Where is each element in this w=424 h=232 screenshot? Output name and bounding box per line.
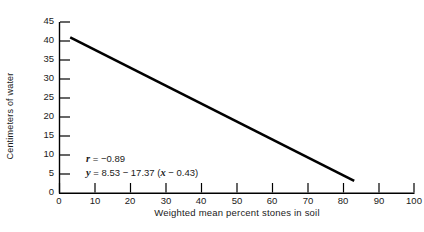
y-tick-label-5: 5 [28, 167, 54, 178]
x-tick-label-20: 20 [120, 195, 140, 206]
y-tick-label-20: 20 [28, 110, 54, 121]
y-tick-label-35: 35 [28, 53, 54, 64]
annotation-equation-part-a: = 8.53 − 17.37 ( [91, 167, 161, 178]
y-tick-label-30: 30 [28, 72, 54, 83]
x-tick-label-0: 0 [49, 195, 69, 206]
y-tick-label-25: 25 [28, 91, 54, 102]
x-tick-label-60: 60 [262, 195, 282, 206]
x-tick-label-80: 80 [333, 195, 353, 206]
chart-annotations: r = −0.89 y = 8.53 − 17.37 (x − 0.43) [86, 152, 198, 180]
chart-figure: Centimeters of water [0, 0, 424, 232]
x-tick-label-50: 50 [227, 195, 247, 206]
annotation-equation-part-b: − 0.43) [166, 167, 198, 178]
x-tick-label-90: 90 [369, 195, 389, 206]
x-tick-label-100: 100 [403, 195, 424, 206]
x-tick-label-70: 70 [298, 195, 318, 206]
y-tick-label-15: 15 [28, 129, 54, 140]
annotation-correlation: r = −0.89 [86, 152, 198, 166]
x-tick-label-30: 30 [156, 195, 176, 206]
y-tick-label-45: 45 [28, 15, 54, 26]
y-tick-label-10: 10 [28, 148, 54, 159]
x-tick-label-10: 10 [85, 195, 105, 206]
y-tick-label-40: 40 [28, 34, 54, 45]
annotation-equation: y = 8.53 − 17.37 (x − 0.43) [86, 166, 198, 180]
x-tick-label-40: 40 [191, 195, 211, 206]
x-axis-title: Weighted mean percent stones in soil [59, 207, 415, 218]
y-axis-ticks [60, 22, 70, 174]
annotation-correlation-value: = −0.89 [90, 153, 125, 164]
x-axis-ticks [60, 183, 415, 193]
